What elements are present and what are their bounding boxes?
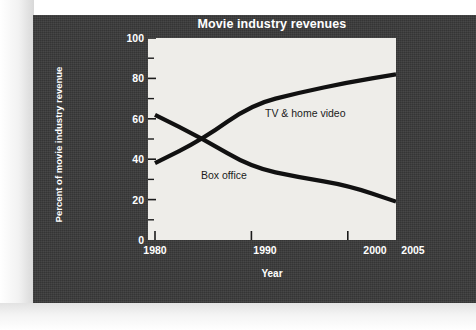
x-tick-label-1990: 1990 [253, 244, 276, 256]
y-axis-major-ticks [148, 38, 156, 200]
plot-canvas [148, 38, 396, 240]
x-tick-label-2005: 2005 [401, 244, 424, 256]
plot-area: TV & home video Box office [148, 38, 396, 240]
y-tick-label-0: 0 [104, 235, 144, 246]
y-tick-label-20: 20 [104, 195, 144, 206]
y-tick-label-40: 40 [104, 154, 144, 165]
chart-title: Movie industry revenues [148, 17, 396, 31]
y-axis-title: Percent of movie industry revenue [53, 40, 64, 250]
x-axis-ticks [155, 231, 348, 240]
y-axis-minor-ticks [148, 58, 154, 220]
y-tick-label-80: 80 [104, 73, 144, 84]
x-tick-label-2000: 2000 [363, 244, 386, 256]
page-edge-shadow-bottom [0, 303, 476, 330]
x-tick-label-1980: 1980 [143, 244, 166, 256]
series-label-tv-home-video: TV & home video [265, 107, 346, 119]
x-axis-title: Year [148, 268, 396, 279]
series-label-box-office: Box office [201, 169, 247, 181]
y-tick-label-100: 100 [104, 33, 144, 44]
series-lines [155, 74, 396, 201]
y-axis-tick-labels: 100 80 60 40 20 0 [100, 0, 144, 330]
page-edge-shadow-left [0, 0, 34, 330]
y-tick-label-60: 60 [104, 114, 144, 125]
figure-root: Movie industry revenues Percent of movie… [0, 0, 476, 330]
